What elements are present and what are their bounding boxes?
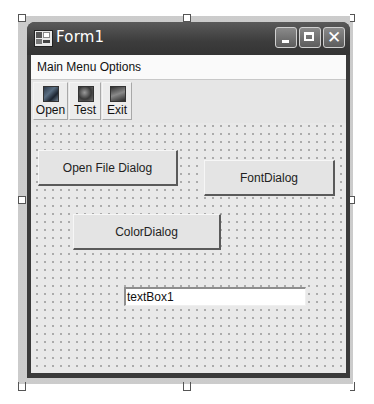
form-icon bbox=[34, 30, 53, 47]
resize-handle-top-middle[interactable] bbox=[183, 14, 191, 22]
toolbar-test-button[interactable]: Test bbox=[69, 82, 101, 120]
menu-strip: Main Menu Options bbox=[31, 55, 346, 80]
toolbar-open-button[interactable]: Open bbox=[33, 82, 68, 120]
text-box-1[interactable]: textBox1 bbox=[124, 287, 306, 306]
minimize-button[interactable] bbox=[275, 27, 297, 48]
menu-item-main-menu-options[interactable]: Main Menu Options bbox=[37, 60, 141, 74]
exit-icon bbox=[110, 86, 126, 102]
color-dialog-label: ColorDialog bbox=[115, 225, 178, 239]
resize-handle-top-left[interactable] bbox=[18, 14, 26, 22]
maximize-button[interactable] bbox=[299, 27, 321, 48]
toolbar-open-label: Open bbox=[34, 103, 67, 117]
open-icon bbox=[43, 86, 59, 102]
close-button[interactable]: ✕ bbox=[323, 27, 345, 48]
open-file-dialog-label: Open File Dialog bbox=[63, 161, 152, 175]
form-window: Form1 ✕ Main Menu Options Open Test Exit bbox=[27, 22, 350, 378]
font-dialog-label: FontDialog bbox=[240, 171, 298, 185]
tool-strip: Open Test Exit bbox=[31, 80, 346, 123]
window-title: Form1 bbox=[56, 28, 104, 46]
form-client-area: Open Test Exit Open File Dialog FontDial… bbox=[31, 80, 346, 373]
resize-handle-middle-right[interactable] bbox=[350, 196, 355, 204]
close-icon: ✕ bbox=[327, 27, 341, 47]
font-dialog-button[interactable]: FontDialog bbox=[204, 160, 335, 196]
toolbar-exit-label: Exit bbox=[103, 103, 131, 117]
toolbar-exit-button[interactable]: Exit bbox=[102, 82, 132, 120]
resize-handle-middle-left[interactable] bbox=[18, 196, 26, 204]
test-icon bbox=[78, 86, 94, 102]
color-dialog-button[interactable]: ColorDialog bbox=[73, 214, 221, 250]
resize-handle-bottom-right[interactable] bbox=[350, 382, 355, 391]
resize-handle-top-right[interactable] bbox=[350, 14, 355, 22]
open-file-dialog-button[interactable]: Open File Dialog bbox=[38, 150, 178, 186]
resize-handle-bottom-left[interactable] bbox=[18, 382, 26, 391]
resize-handle-bottom-middle[interactable] bbox=[183, 382, 191, 391]
title-bar[interactable]: Form1 ✕ bbox=[27, 22, 350, 55]
toolbar-test-label: Test bbox=[70, 103, 100, 117]
